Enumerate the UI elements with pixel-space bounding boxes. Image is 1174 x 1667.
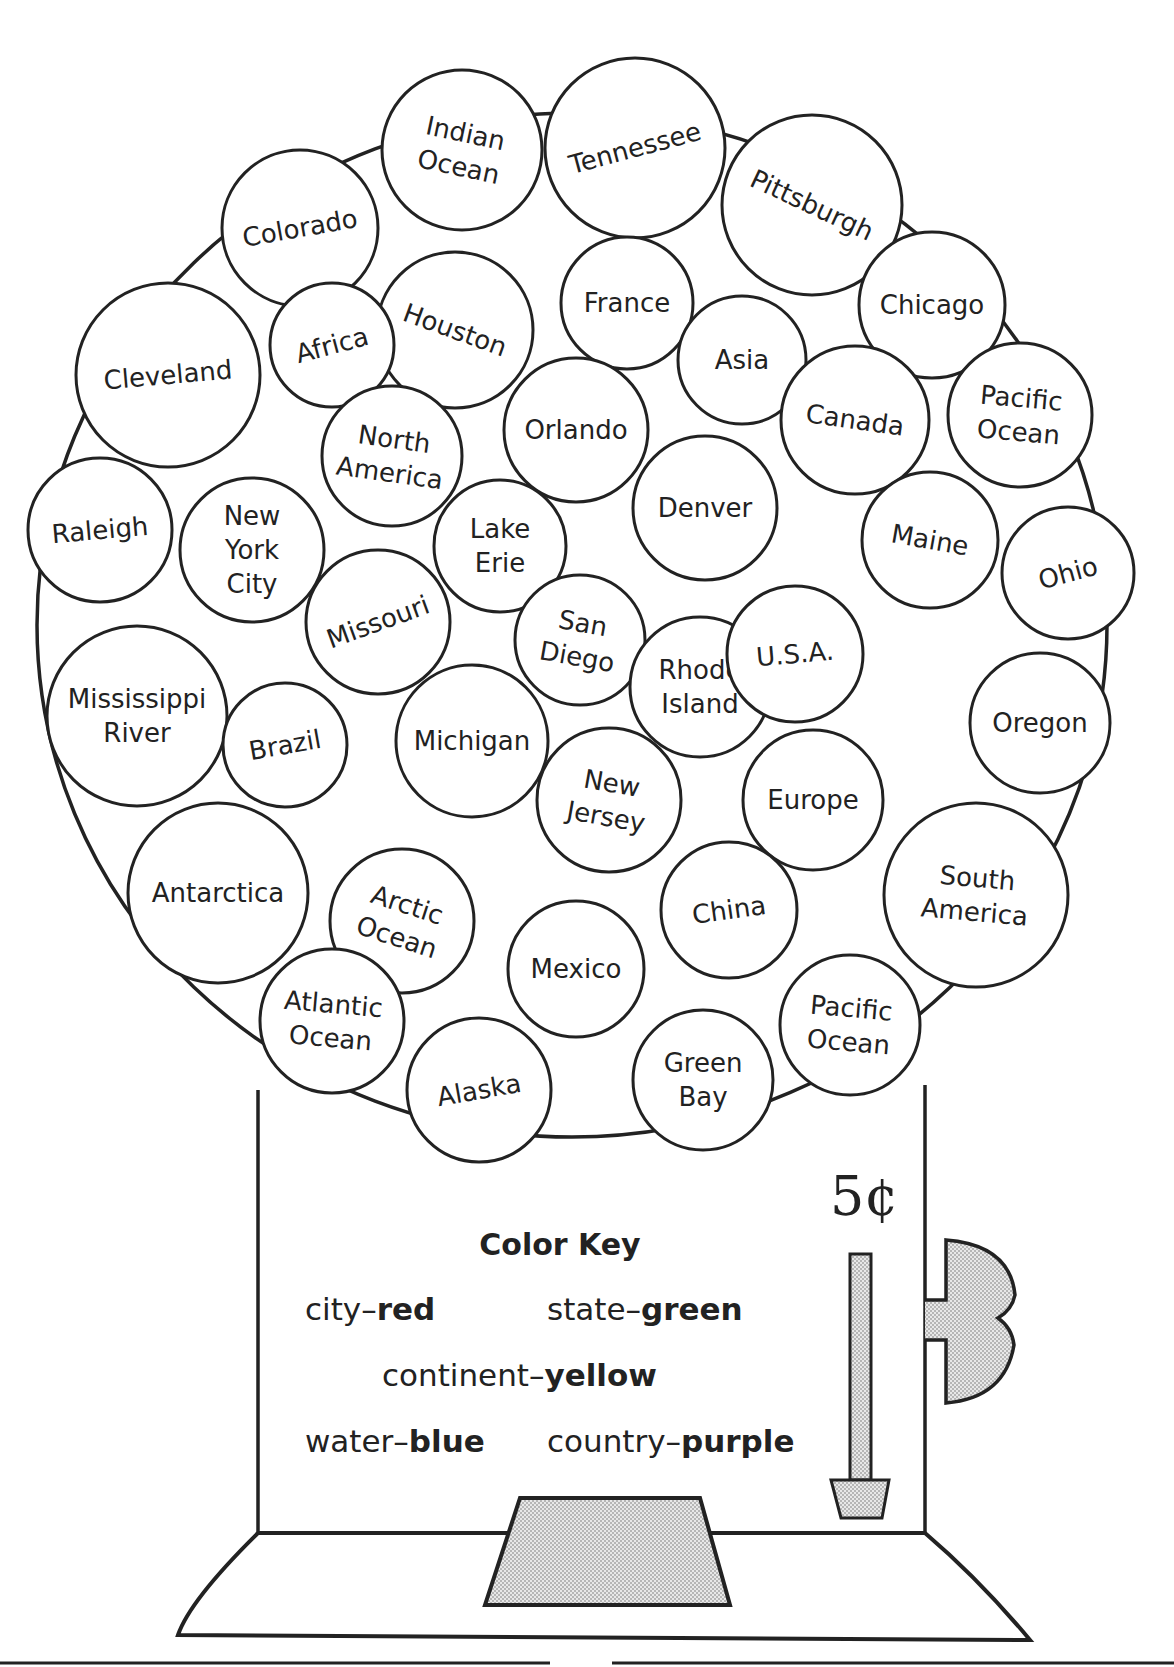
gumball[interactable]: Denver <box>633 436 777 580</box>
gumball-label: France <box>584 288 670 318</box>
turn-knob <box>925 1240 1015 1403</box>
gumball-circle[interactable] <box>884 803 1068 987</box>
gumball[interactable]: Houston <box>377 252 533 408</box>
gumball-label: Europe <box>767 785 858 815</box>
color-key-entry-state: state–green <box>547 1291 743 1327</box>
gumball[interactable]: U.S.A. <box>727 586 863 722</box>
coin-lever-handle <box>831 1480 889 1518</box>
gumball[interactable]: Michigan <box>396 665 548 817</box>
gumball-label: Mexico <box>531 954 622 984</box>
gumball-circle[interactable] <box>537 728 681 872</box>
gumball[interactable]: France <box>561 237 693 369</box>
color-key-entry-continent: continent–yellow <box>382 1357 657 1393</box>
gumball-circle[interactable] <box>382 70 542 230</box>
gumball-circle[interactable] <box>515 575 645 705</box>
gumball[interactable]: GreenBay <box>633 1010 773 1150</box>
color-key-entry-country: country–purple <box>547 1423 794 1459</box>
gumball[interactable]: China <box>661 842 797 978</box>
gumball[interactable]: PacificOcean <box>780 955 920 1095</box>
gumball[interactable]: SanDiego <box>515 575 645 705</box>
gumball-label: Chicago <box>880 290 985 320</box>
color-key-entry-water: water–blue <box>305 1423 485 1459</box>
gumball-circle[interactable] <box>780 955 920 1095</box>
gumball[interactable]: PacificOcean <box>948 343 1092 487</box>
gumball[interactable]: Canada <box>781 346 929 494</box>
gumball-circle[interactable] <box>47 626 227 806</box>
gumball[interactable]: NorthAmerica <box>322 386 462 526</box>
gumball[interactable]: Orlando <box>504 358 648 502</box>
gumball-label: Orlando <box>524 415 627 445</box>
gumball[interactable]: Cleveland <box>76 283 260 467</box>
gumball[interactable]: AtlanticOcean <box>260 949 404 1093</box>
gumball-machine-drawing: IndianOceanTennesseePittsburghColoradoCh… <box>0 0 1174 1667</box>
color-key-title: Color Key <box>479 1227 641 1262</box>
gumball-label: Asia <box>715 345 770 375</box>
gumball[interactable]: SouthAmerica <box>884 803 1068 987</box>
color-key-entry-city: city–red <box>305 1291 435 1327</box>
gumball[interactable]: IndianOcean <box>382 70 542 230</box>
gumball-machine-worksheet: IndianOceanTennesseePittsburghColoradoCh… <box>0 0 1174 1667</box>
coin-lever-shaft <box>850 1254 871 1480</box>
gumball[interactable]: Europe <box>743 730 883 870</box>
gumball[interactable]: Alaska <box>407 1018 551 1162</box>
gumball[interactable]: Ohio <box>1002 507 1134 639</box>
gumball-group: IndianOceanTennesseePittsburghColoradoCh… <box>28 58 1134 1162</box>
gumball[interactable]: Missouri <box>306 550 450 694</box>
gumball[interactable]: Mexico <box>508 901 644 1037</box>
gumball-circle[interactable] <box>633 1010 773 1150</box>
gumball[interactable]: NewJersey <box>537 728 681 872</box>
color-key: Color Key city–red state–green continent… <box>305 1227 794 1459</box>
gumball[interactable]: Brazil <box>223 683 347 807</box>
gumball[interactable]: Colorado <box>222 150 378 306</box>
gumball-label: Antarctica <box>152 878 284 908</box>
gumball[interactable]: NewYorkCity <box>180 478 324 622</box>
gumball-label: Oregon <box>992 708 1087 738</box>
gumball-label: Michigan <box>414 726 531 756</box>
gumball-circle[interactable] <box>260 949 404 1093</box>
gumball[interactable]: Raleigh <box>28 458 172 602</box>
gumball[interactable]: MississippiRiver <box>47 626 227 806</box>
price-label: 5¢ <box>830 1165 899 1228</box>
gumball[interactable]: Maine <box>862 472 998 608</box>
gumball-circle[interactable] <box>948 343 1092 487</box>
gumball[interactable]: Tennessee <box>545 58 725 238</box>
dispenser-chute <box>485 1498 730 1605</box>
gumball[interactable]: Oregon <box>970 653 1110 793</box>
gumball-label: Denver <box>658 493 753 523</box>
gumball[interactable]: Antarctica <box>128 803 308 983</box>
gumball-label: NewYorkCity <box>224 501 281 599</box>
